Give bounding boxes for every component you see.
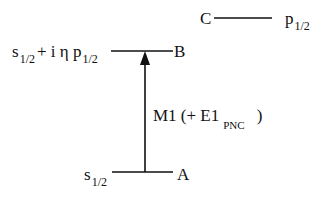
level-b-state-label: s1/2+ i η p1/2 bbox=[12, 43, 98, 60]
level-b-mixing: + i η p bbox=[37, 42, 81, 61]
level-a-label: A bbox=[177, 166, 189, 183]
transition-label-close: ) bbox=[257, 106, 263, 125]
level-b-state-prefix: s bbox=[12, 42, 19, 61]
transition-label-sub: PNC bbox=[223, 119, 244, 131]
level-c-label: C bbox=[200, 10, 211, 27]
level-a-state-label: s1/2 bbox=[84, 166, 107, 183]
level-c-state-label: p1/2 bbox=[285, 10, 310, 27]
level-b-label: B bbox=[174, 43, 185, 60]
level-a-state: s bbox=[84, 165, 91, 184]
level-c-state: p bbox=[285, 9, 294, 28]
level-a-state-sub: 1/2 bbox=[92, 175, 107, 189]
transition-label: M1 (+ E1PNC) bbox=[153, 107, 262, 124]
diagram-lines bbox=[0, 0, 329, 200]
level-b-state-prefix-sub: 1/2 bbox=[20, 52, 35, 66]
transition-label-main: M1 (+ E1 bbox=[153, 106, 219, 125]
level-b-mixing-sub: 1/2 bbox=[82, 52, 97, 66]
arrow-head-icon bbox=[140, 51, 150, 65]
level-c-state-sub: 1/2 bbox=[295, 19, 310, 33]
